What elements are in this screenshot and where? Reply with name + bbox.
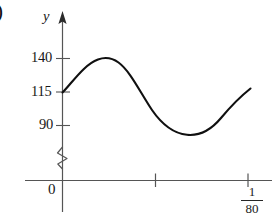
- y-axis-tick-label-115: 115: [31, 84, 52, 99]
- curve-path: [63, 58, 251, 135]
- graph-canvas: [0, 0, 277, 221]
- figure-panel: ) 140 115 90 y 0 1 80: [0, 0, 277, 221]
- fraction-denominator: 80: [239, 202, 265, 216]
- y-axis-tick-label-140: 140: [31, 50, 52, 65]
- x-axis-tick-label-fraction: 1 80: [239, 185, 265, 215]
- origin-label: 0: [48, 182, 56, 197]
- y-axis-tick-label-90: 90: [39, 117, 53, 132]
- y-axis-name-label: y: [43, 9, 49, 24]
- fraction-numerator: 1: [239, 185, 265, 199]
